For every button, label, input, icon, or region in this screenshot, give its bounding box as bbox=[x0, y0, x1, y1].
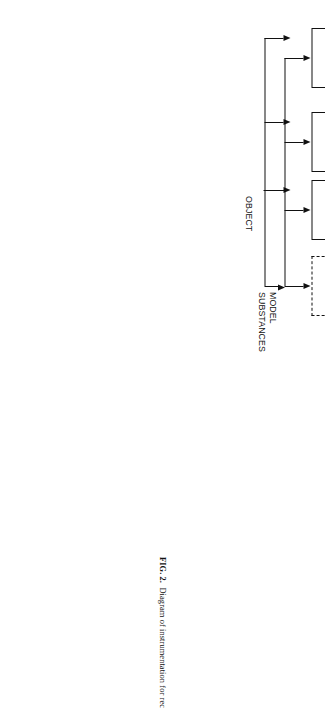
model-bus-line bbox=[264, 38, 265, 286]
instrument-xray-mass-msp[interactable]: X–RAY MASS MSP bbox=[311, 180, 325, 240]
object-feed-1 bbox=[284, 58, 303, 59]
figure-caption-text: Diagram of instrumentation for recording… bbox=[158, 587, 167, 708]
object-feed-arrow-3 bbox=[303, 207, 310, 213]
instrument-umsp-uv-vis[interactable]: UMSP UV. VIS. bbox=[311, 28, 325, 88]
figure-caption-prefix: FIG. 2. bbox=[158, 557, 167, 583]
instrument-interfer-ump[interactable]: INTERFER. UMP bbox=[311, 112, 325, 172]
object-feed-3 bbox=[284, 210, 303, 211]
object-feed-2 bbox=[284, 142, 303, 143]
model-feed-arrow-1 bbox=[283, 35, 290, 41]
source-object: OBJECT bbox=[242, 196, 253, 231]
source-model-substances: MODEL SUBSTANCES bbox=[255, 292, 277, 352]
model-feed-2 bbox=[264, 122, 283, 123]
object-bus-riser bbox=[263, 190, 285, 191]
object-feed-arrow-4 bbox=[303, 283, 310, 289]
object-bus-line bbox=[284, 58, 285, 286]
object-feed-arrow-1 bbox=[303, 55, 310, 61]
model-feed-1 bbox=[264, 38, 283, 39]
object-feed-arrow-2 bbox=[303, 139, 310, 145]
instrument-xray-element-msp[interactable]: X–RAY ELEMENT MSP bbox=[311, 256, 325, 316]
figure-caption: FIG. 2. Diagram of instrumentation for r… bbox=[143, 526, 183, 708]
object-feed-4 bbox=[284, 286, 303, 287]
